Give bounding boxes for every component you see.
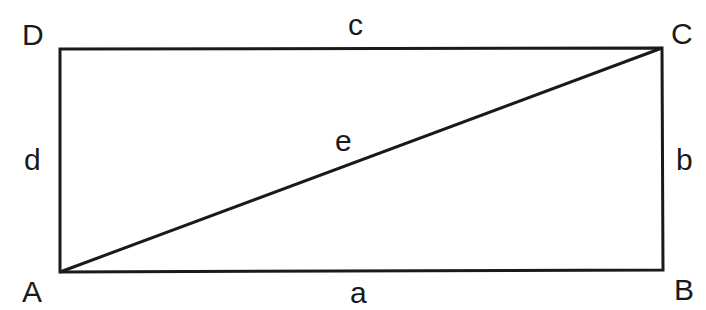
diagonal-label-e: e bbox=[335, 126, 352, 156]
vertex-label-b: B bbox=[674, 275, 694, 305]
vertex-label-a: A bbox=[22, 277, 42, 307]
side-label-d: d bbox=[24, 145, 41, 175]
rectangle-diagram bbox=[0, 0, 706, 310]
diagonal-e bbox=[60, 48, 662, 272]
vertex-label-c: C bbox=[671, 19, 693, 49]
side-label-c: c bbox=[348, 10, 363, 40]
vertex-label-d: D bbox=[22, 20, 44, 50]
side-label-a: a bbox=[350, 278, 367, 308]
side-label-b: b bbox=[676, 145, 693, 175]
